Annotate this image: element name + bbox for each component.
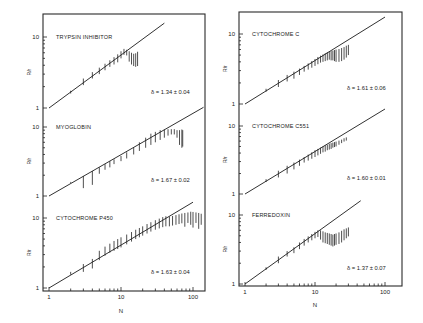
fractal-dimension-annotation: δ = 1.37 ± 0.07 xyxy=(347,265,386,271)
y-tick-label: 1 xyxy=(36,285,40,291)
y-tick-label: 1 xyxy=(232,281,236,287)
x-tick-label: 100 xyxy=(188,294,199,300)
panel-trypsin-inhibitor: 110R/rTRYPSIN INHIBITORδ = 1.34 ± 0.04 xyxy=(26,23,191,111)
y-tick-label: 10 xyxy=(32,215,39,221)
y-tick-label: 1 xyxy=(232,101,236,107)
panel-myoglobin: 110R/rMYOGLOBINδ = 1.67 ± 0.02 xyxy=(26,107,204,199)
panel-ferredoxin: 110R/rFERREDOXINδ = 1.37 ± 0.07 xyxy=(222,201,386,287)
panel-title: CYTOCHROME C xyxy=(252,31,300,37)
y-tick-label: 10 xyxy=(32,34,39,40)
y-tick-label: 10 xyxy=(228,212,235,218)
y-tick-label: 10 xyxy=(228,31,235,37)
x-axis-label: N xyxy=(313,302,317,308)
x-tick-label: 10 xyxy=(118,294,125,300)
fractal-dimension-annotation: δ = 1.67 ± 0.02 xyxy=(151,177,190,183)
x-tick-label: 1 xyxy=(243,289,247,295)
x-tick-label: 100 xyxy=(380,289,391,295)
y-tick-label: 1 xyxy=(232,191,236,197)
y-axis-label: R/r xyxy=(26,249,32,256)
panel-title: CYTOCHROME C551 xyxy=(252,123,309,129)
fractal-dimension-annotation: δ = 1.34 ± 0.04 xyxy=(151,89,191,95)
y-axis-label: R/r xyxy=(222,65,228,72)
y-tick-label: 1 xyxy=(36,193,40,199)
fractal-dimension-annotation: δ = 1.63 ± 0.04 xyxy=(151,269,191,275)
y-axis-label: R/r xyxy=(222,156,228,163)
panel-cytochrome-c551: 110R/rCYTOCHROME C551δ = 1.60 ± 0.01 xyxy=(222,109,386,197)
fractal-dimension-annotation: δ = 1.60 ± 0.01 xyxy=(347,175,386,181)
figure-fractal-dimension-panels: 110100N110R/rTRYPSIN INHIBITORδ = 1.34 ±… xyxy=(0,0,423,323)
panel-title: FERREDOXIN xyxy=(252,212,290,218)
panel-cytochrome-p450: 110R/rCYTOCHROME P450δ = 1.63 ± 0.04 xyxy=(26,202,201,291)
y-tick-label: 10 xyxy=(228,123,235,129)
panel-title: MYOGLOBIN xyxy=(56,124,91,130)
panel-title: TRYPSIN INHIBITOR xyxy=(56,34,112,40)
fractal-dimension-annotation: δ = 1.61 ± 0.06 xyxy=(347,85,386,91)
y-axis-label: R/r xyxy=(26,157,32,164)
left-column: 110100N110R/rTRYPSIN INHIBITORδ = 1.34 ±… xyxy=(26,14,205,314)
x-axis-label: N xyxy=(119,308,123,314)
x-tick-label: 10 xyxy=(312,289,319,295)
y-axis-label: R/r xyxy=(222,245,228,252)
x-tick-label: 1 xyxy=(47,294,51,300)
y-tick-label: 10 xyxy=(32,124,39,130)
y-tick-label: 1 xyxy=(36,105,40,111)
right-column: 110100N110R/rCYTOCHROME Cδ = 1.61 ± 0.06… xyxy=(222,12,402,308)
panel-title: CYTOCHROME P450 xyxy=(56,215,113,221)
panel-cytochrome-c: 110R/rCYTOCHROME Cδ = 1.61 ± 0.06 xyxy=(222,17,386,107)
y-axis-label: R/r xyxy=(26,68,32,75)
